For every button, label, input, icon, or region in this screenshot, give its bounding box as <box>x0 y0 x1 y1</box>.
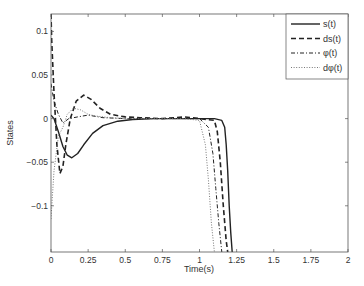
legend-label: s(t) <box>323 19 336 29</box>
x-tick-label: 0.75 <box>154 255 171 265</box>
x-axis-label: Time(s) <box>184 264 214 274</box>
legend-label: ds(t) <box>323 34 341 44</box>
y-tick-label: 0 <box>43 114 48 124</box>
x-tick-label: 1.25 <box>228 255 245 265</box>
y-tick-label: 0.05 <box>31 70 48 80</box>
x-tick-label: 0 <box>49 255 54 265</box>
y-tick-label: −0.1 <box>31 201 48 211</box>
x-tick-label: 2 <box>346 255 351 265</box>
legend: s(t)ds(t)φ(t)dφ(t) <box>286 14 348 79</box>
x-tick-label: 0.25 <box>80 255 97 265</box>
x-tick-label: 0.5 <box>119 255 131 265</box>
y-tick-label: −0.05 <box>26 157 48 167</box>
legend-label: φ(t) <box>323 48 337 58</box>
x-tick-label: 1.75 <box>303 255 320 265</box>
y-axis-label: States <box>5 120 15 146</box>
legend-label: dφ(t) <box>323 63 342 73</box>
y-tick-label: 0.1 <box>36 26 48 36</box>
x-tick-label: 1.5 <box>268 255 280 265</box>
line-chart: 00.250.50.7511.251.51.752 0.10.050−0.05−… <box>0 0 364 286</box>
